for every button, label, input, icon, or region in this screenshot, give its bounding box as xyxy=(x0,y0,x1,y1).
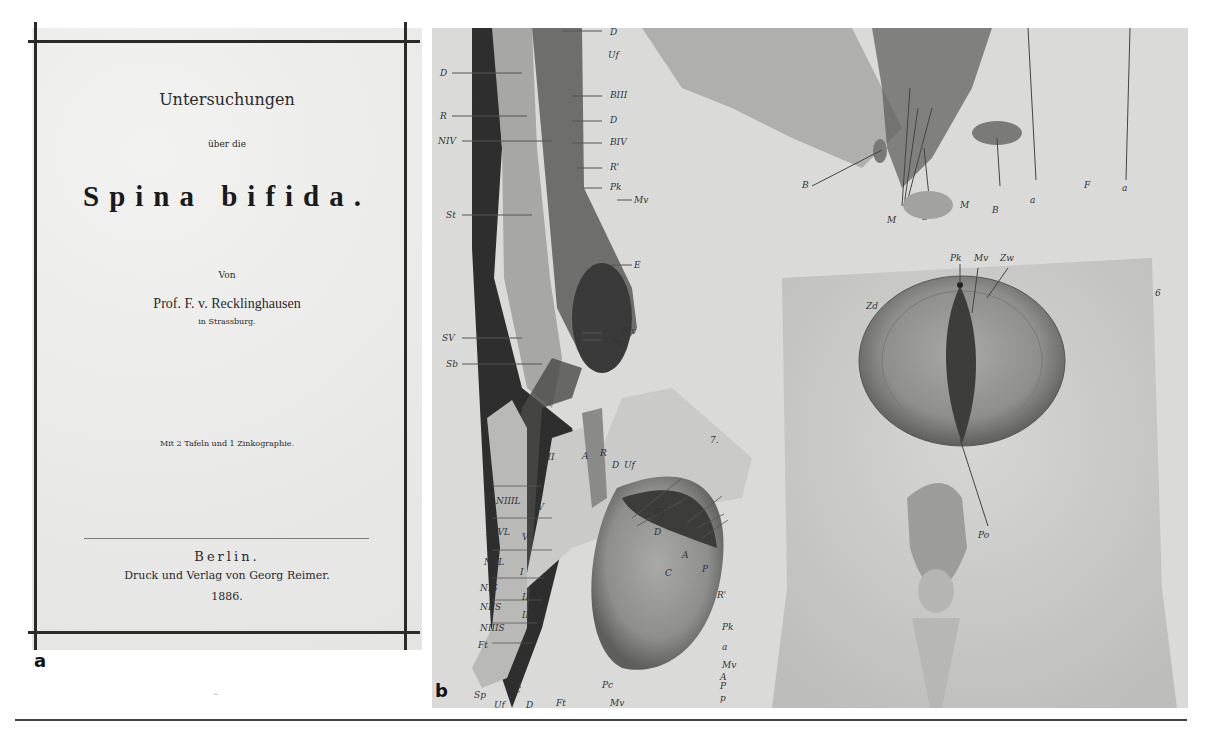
svg-text:A: A xyxy=(681,550,689,560)
svg-text:A: A xyxy=(581,451,589,461)
svg-text:Po: Po xyxy=(977,530,990,540)
svg-text:P: P xyxy=(719,681,727,691)
imprint-year: 1886. xyxy=(32,590,422,603)
svg-text:NIV: NIV xyxy=(437,136,457,146)
svg-text:Mv: Mv xyxy=(721,660,736,670)
svg-text:D: D xyxy=(653,527,661,537)
svg-text:Mv: Mv xyxy=(621,326,636,336)
panel-label-a: a xyxy=(34,650,46,671)
svg-text:S: S xyxy=(474,94,480,104)
imprint-city: Berlin. xyxy=(32,549,422,564)
svg-text:NIS: NIS xyxy=(479,583,498,593)
svg-text:Uf: Uf xyxy=(608,50,621,60)
svg-text:Ft: Ft xyxy=(555,698,566,708)
svg-text:Mv: Mv xyxy=(973,253,988,263)
svg-text:St: St xyxy=(446,210,456,220)
svg-text:Pc: Pc xyxy=(611,338,623,348)
svg-text:Sb: Sb xyxy=(446,359,458,369)
svg-text:D: D xyxy=(609,115,617,125)
svg-text:Zw: Zw xyxy=(999,253,1014,263)
title-line-2: über die xyxy=(32,139,422,149)
svg-text:D: D xyxy=(525,700,533,708)
plate-illustration: D Uf D BIII R D NIV BIV R' Pk Mv St E SV… xyxy=(432,28,1188,708)
svg-text:NIIIL: NIIIL xyxy=(495,496,521,506)
imprint-publisher: Druck und Verlag von Georg Reimer. xyxy=(32,569,422,582)
svg-text:C: C xyxy=(514,685,521,695)
svg-text:NIVL: NIVL xyxy=(485,527,510,537)
svg-text:D: D xyxy=(609,28,617,37)
svg-text:C: C xyxy=(665,568,672,578)
svg-text:Mv: Mv xyxy=(633,195,648,205)
svg-text:Pk: Pk xyxy=(721,622,734,632)
main-title: Spina bifida. xyxy=(32,180,422,213)
svg-text:F: F xyxy=(1083,180,1091,190)
svg-text:Pk: Pk xyxy=(949,253,962,263)
svg-text:III: III xyxy=(521,610,533,620)
svg-text:NVL: NVL xyxy=(483,557,504,567)
svg-text:D: D xyxy=(439,68,447,78)
svg-text:Uf: Uf xyxy=(494,700,507,708)
svg-text:Pc: Pc xyxy=(601,680,613,690)
svg-text:NIIIS: NIIIS xyxy=(479,623,505,633)
svg-text:p: p xyxy=(720,693,726,703)
svg-text:III: III xyxy=(543,452,555,462)
svg-text:6: 6 xyxy=(1155,288,1161,298)
svg-text:IV: IV xyxy=(533,502,546,512)
svg-text:Zd: Zd xyxy=(865,301,878,311)
svg-text:R': R' xyxy=(609,162,619,172)
svg-text:BV: BV xyxy=(653,507,669,517)
svg-text:NIIS: NIIS xyxy=(479,602,501,612)
author-name: Prof. F. v. Recklinghausen xyxy=(32,296,422,312)
svg-text:D: D xyxy=(611,460,619,470)
svg-text:a: a xyxy=(1030,195,1035,205)
panel-a-title-page: Untersuchungen über die Spina bifida. Vo… xyxy=(32,28,422,650)
svg-text:R: R xyxy=(599,448,607,458)
panel-b-anatomical-plate: D Uf D BIII R D NIV BIV R' Pk Mv St E SV… xyxy=(432,28,1188,708)
svg-text:a: a xyxy=(1122,183,1127,193)
svg-text:II: II xyxy=(521,592,530,602)
svg-text:IV: IV xyxy=(519,640,532,650)
imprint-divider xyxy=(84,538,369,539)
svg-text:BIII: BIII xyxy=(609,90,628,100)
frame-rule-top xyxy=(28,40,420,43)
caption-rule xyxy=(15,719,1187,721)
svg-text:I: I xyxy=(519,567,524,577)
svg-text:E: E xyxy=(633,260,641,270)
svg-text:BIV: BIV xyxy=(609,137,628,147)
svg-text:M: M xyxy=(886,215,897,225)
svg-text:Pk: Pk xyxy=(609,182,622,192)
svg-text:R': R' xyxy=(716,590,726,600)
svg-text:R: R xyxy=(439,111,447,121)
svg-text:B: B xyxy=(801,180,809,190)
svg-text:Uf: Uf xyxy=(624,460,637,470)
svg-text:Ft: Ft xyxy=(477,640,488,650)
svg-text:Sp: Sp xyxy=(474,690,486,700)
panel-label-b: b xyxy=(435,680,448,701)
by-line: Von xyxy=(32,270,422,280)
svg-text:B: B xyxy=(991,205,999,215)
title-line-1: Untersuchungen xyxy=(32,90,422,109)
frame-rule-bottom xyxy=(28,631,420,634)
svg-text:SV: SV xyxy=(442,333,456,343)
stray-mark: ~ xyxy=(213,690,218,697)
plates-note: Mit 2 Tafeln und 1 Zinkographie. xyxy=(32,439,422,448)
svg-text:Mv: Mv xyxy=(609,698,624,708)
author-location: in Strassburg. xyxy=(32,317,422,326)
svg-text:a: a xyxy=(722,642,727,652)
svg-text:P: P xyxy=(701,564,709,574)
svg-text:7.: 7. xyxy=(710,435,719,445)
svg-text:M: M xyxy=(959,200,970,210)
